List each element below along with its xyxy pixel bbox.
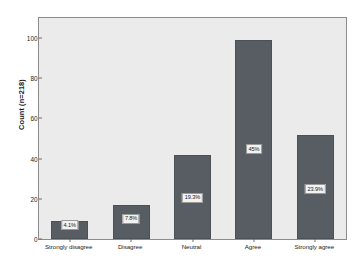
bar-group: 4.1% <box>51 18 88 239</box>
bar-group: 7.8% <box>113 18 150 239</box>
y-axis-tick: 40 <box>30 155 39 162</box>
bar[interactable]: 19.3% <box>174 155 211 239</box>
y-axis-title: Count (n=218) <box>17 40 26 170</box>
plot-area: 020406080100 4.1%7.8%19.3%45%23.9% <box>38 17 347 240</box>
bar-group: 23.9% <box>297 18 334 239</box>
bar[interactable]: 7.8% <box>113 205 150 239</box>
bar-data-label: 7.8% <box>122 214 139 224</box>
y-axis-tick-label: 20 <box>30 195 39 202</box>
x-axis-tick-mark <box>69 239 70 242</box>
plot-inner: 020406080100 4.1%7.8%19.3%45%23.9% <box>39 18 346 239</box>
y-axis-tick: 60 <box>30 115 39 122</box>
bar[interactable]: 23.9% <box>297 135 334 239</box>
y-axis-tick-label: 60 <box>30 115 39 122</box>
x-axis-category-label: Neutral <box>182 243 202 250</box>
x-axis-category-label: Strongly agree <box>295 243 335 250</box>
x-axis-tick-mark <box>315 239 316 242</box>
bar-chart: Count (n=218) 020406080100 4.1%7.8%19.3%… <box>0 0 358 258</box>
bar-data-label: 4.1% <box>61 220 78 230</box>
y-axis-tick: 100 <box>27 35 39 42</box>
bar-group: 19.3% <box>174 18 211 239</box>
x-axis-category-label: Agree <box>245 243 261 250</box>
x-axis-tick-mark <box>253 239 254 242</box>
bar-data-label: 45% <box>246 144 262 154</box>
bar-data-label: 23.9% <box>305 184 325 194</box>
bar[interactable]: 45% <box>235 40 272 239</box>
y-axis-tick-label: 100 <box>27 35 39 42</box>
y-axis-tick-label: 80 <box>30 75 39 82</box>
x-axis-category-label: Strongly disagree <box>45 243 92 250</box>
y-axis-tick: 20 <box>30 195 39 202</box>
y-axis-tick: 80 <box>30 75 39 82</box>
x-axis-category-label: Disagree <box>118 243 142 250</box>
bar-group: 45% <box>235 18 272 239</box>
bars-layer: 4.1%7.8%19.3%45%23.9% <box>39 18 346 239</box>
x-axis-tick-mark <box>131 239 132 242</box>
y-axis-tick-label: 40 <box>30 155 39 162</box>
bar[interactable]: 4.1% <box>51 221 88 239</box>
x-axis-tick-mark <box>192 239 193 242</box>
bar-data-label: 19.3% <box>182 193 202 203</box>
